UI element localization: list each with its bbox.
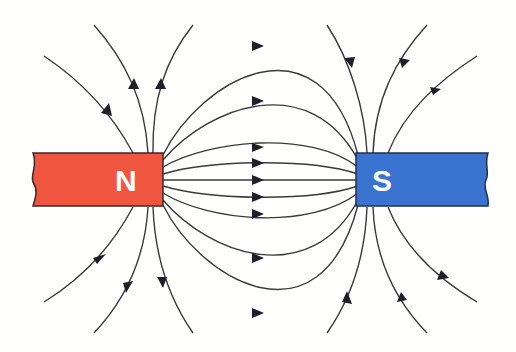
arrow-right-icon <box>252 158 264 168</box>
north-magnet: N <box>32 153 163 206</box>
arrow-down-icon <box>344 57 355 68</box>
magnetic-field-diagram: N S <box>0 0 516 352</box>
arrow-right-icon <box>252 175 264 185</box>
arrow-right-icon <box>252 192 264 202</box>
arrow-down-icon <box>399 58 410 68</box>
arrow-up-icon <box>155 78 166 89</box>
south-magnet: S <box>356 153 488 206</box>
arrow-right-icon <box>252 308 264 318</box>
north-pole-label: N <box>115 164 137 197</box>
field-diagram-svg: N S <box>0 0 516 352</box>
south-pole-label: S <box>372 164 392 197</box>
arrow-right-icon <box>252 41 264 51</box>
arrow-right-icon <box>252 96 264 106</box>
arrow-icons-center <box>252 41 264 318</box>
arrow-up-icon <box>101 103 112 116</box>
arrow-down-icon <box>157 277 167 288</box>
arrow-right-icon <box>252 143 264 152</box>
arrow-down-icon <box>430 87 441 95</box>
arrow-up-icon <box>342 291 352 304</box>
